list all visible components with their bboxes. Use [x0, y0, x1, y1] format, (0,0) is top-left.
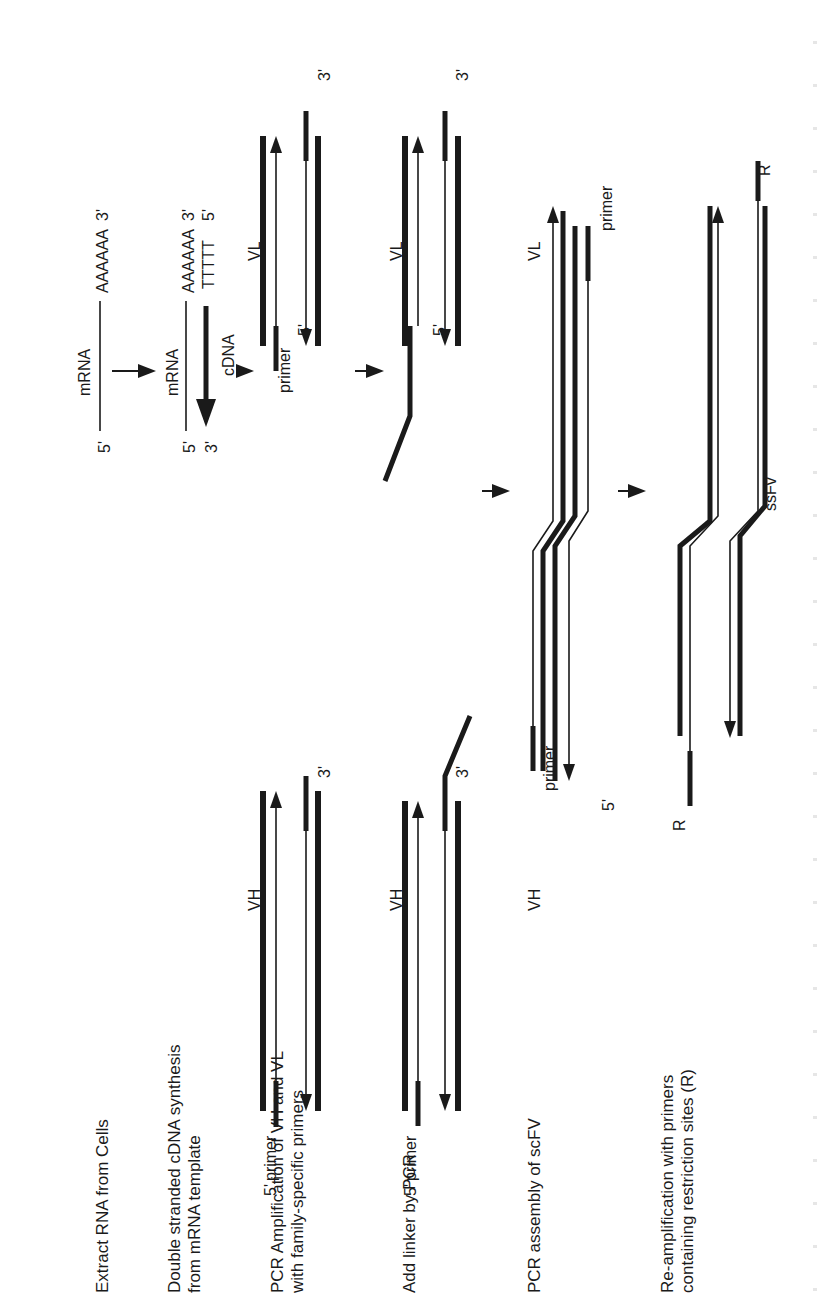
- step-labels: Extract RNA from Cells Double stranded c…: [93, 1044, 697, 1294]
- arrow-down-2: [236, 364, 254, 378]
- arrow-down-5: [618, 484, 646, 498]
- assembly: VH VL 5' primer primer: [526, 185, 617, 911]
- step-label-pcr-amp-line2: with family-specific primers: [288, 1090, 307, 1294]
- cdna-polya-label: AAAAAA: [180, 229, 197, 293]
- vl-linker-tail: [385, 326, 410, 481]
- step-label-cdna-line1: Double stranded cDNA synthesis: [165, 1044, 184, 1293]
- pcr-amp-vh-primer-label: primer: [262, 1135, 279, 1181]
- step-label-reamp-line2: containing restriction sites (R): [678, 1069, 697, 1293]
- arrow-down-3: [355, 364, 384, 378]
- cdna-mrna-label: mRNA: [164, 349, 181, 396]
- cdna-label: cDNA: [220, 334, 237, 376]
- step-label-reamp-line1: Re-amplification with primers: [658, 1075, 677, 1293]
- step-label-extract: Extract RNA from Cells: [93, 1119, 112, 1293]
- linker-vl-3prime: 3': [454, 69, 471, 81]
- pcr-amp-vh-5prime: 5': [262, 1184, 279, 1196]
- mrna-label: mRNA: [76, 349, 93, 396]
- pcr-amp-vh-3prime: 3': [316, 766, 333, 778]
- reamp-r-left-label: R: [671, 819, 688, 831]
- cdna-polyt-label: TTTTT: [200, 240, 217, 289]
- step-label-cdna-line2: from mRNA template: [185, 1135, 204, 1293]
- cdna-schematic: 5' 3' mRNA cDNA AAAAAA TTTTT 3' 5': [164, 209, 237, 453]
- pcr-amp-vl-primer-label: primer: [276, 347, 293, 393]
- assembly-primer-right-label: primer: [598, 185, 615, 231]
- assembly-5prime: 5': [600, 799, 617, 811]
- linker-vh-3prime: 3': [454, 766, 471, 778]
- rotated-figure: Extract RNA from Cells Double stranded c…: [0, 0, 832, 1311]
- reamp: R R ssFv: [671, 161, 779, 831]
- linker-vh-primer-label: primer: [402, 1135, 419, 1181]
- cdna-3prime-bottom-label: 3': [203, 441, 220, 453]
- mrna-polya-label: AAAAAA: [94, 229, 111, 293]
- pcr-amp-vl-3prime: 3': [316, 69, 333, 81]
- cdna-arrowhead: [196, 399, 216, 427]
- cdna-5prime-top-label: 5': [181, 441, 198, 453]
- pcr-amp-vl: VL 5' primer 3': [246, 69, 333, 393]
- cdna-5prime-bottom-label: 5': [200, 209, 217, 221]
- arrow-down-1: [112, 364, 156, 378]
- step-label-assembly: PCR assembly of scFV: [525, 1118, 544, 1293]
- mrna-schematic: 5' mRNA AAAAAA 3': [76, 209, 113, 453]
- linker-vl: VL 5' 3': [385, 69, 471, 481]
- assembly-vh-label: VH: [526, 889, 543, 911]
- mrna-5prime-label: 5': [96, 441, 113, 453]
- linker-vh: VH 5' primer 3': [388, 716, 471, 1196]
- cdna-3prime-top-label: 3': [180, 209, 197, 221]
- assembly-vl-label: VL: [526, 241, 543, 261]
- scfv-construction-diagram: Extract RNA from Cells Double stranded c…: [0, 0, 832, 1311]
- mrna-3prime-label: 3': [94, 209, 111, 221]
- linker-vh-5prime: 5': [402, 1184, 419, 1196]
- arrow-down-4: [482, 484, 510, 498]
